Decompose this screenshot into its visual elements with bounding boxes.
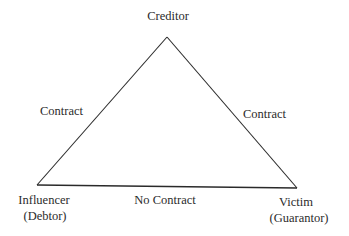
creditor-label: Creditor — [147, 9, 189, 23]
victim-label: Victim — [279, 195, 313, 209]
influencer-label: Influencer — [18, 193, 69, 207]
debtor-sublabel: (Debtor) — [23, 209, 66, 223]
edge-bottom-line — [37, 185, 297, 188]
right-contract-label: Contract — [243, 107, 286, 121]
left-contract-label: Contract — [40, 104, 83, 118]
no-contract-label: No Contract — [134, 193, 195, 207]
guarantor-sublabel: (Guarantor) — [270, 211, 329, 225]
triangle-diagram: Creditor Contract Contract Influencer (D… — [0, 0, 349, 236]
